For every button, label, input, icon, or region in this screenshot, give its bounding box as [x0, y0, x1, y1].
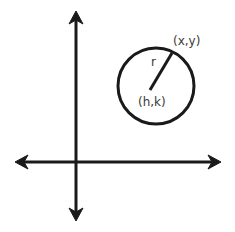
circle-shape: [118, 48, 194, 124]
point-label: (x,y): [173, 34, 200, 48]
radius-label: r: [151, 55, 156, 69]
center-label: (h,k): [138, 95, 166, 109]
y-axis: [69, 11, 83, 221]
coordinate-diagram: (x,y) r (h,k): [0, 0, 235, 232]
x-axis: [15, 155, 221, 169]
